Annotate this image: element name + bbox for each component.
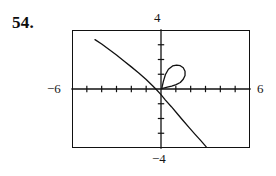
graph-figure: 54. 4 −4 −6 6 (0, 0, 276, 176)
viewport-label-ymin: −4 (152, 152, 166, 165)
plot-canvas (72, 30, 250, 148)
viewport-label-xmax: 6 (257, 82, 264, 95)
series-closed-loop (162, 65, 185, 89)
axes-group (72, 30, 250, 148)
series-descending-branch (95, 40, 206, 147)
viewport-label-ymax: 4 (154, 11, 161, 24)
plot-surface (72, 30, 250, 148)
viewport-label-xmin: −6 (47, 82, 61, 95)
plot-series-group (95, 40, 206, 147)
exercise-number-label: 54. (12, 14, 34, 31)
